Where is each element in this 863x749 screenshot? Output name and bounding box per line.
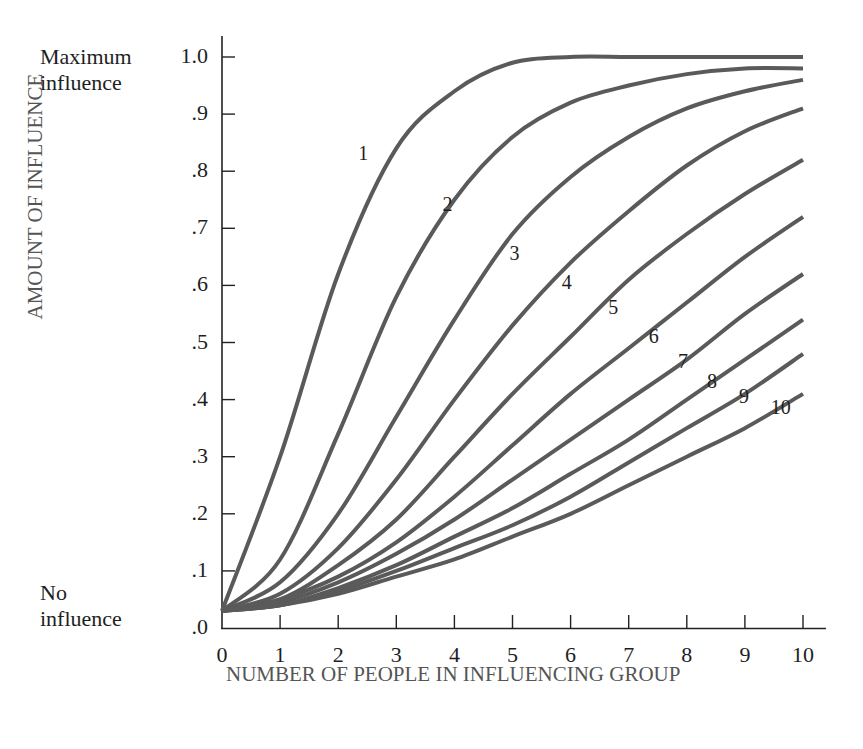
no-influence-annotation: No influence: [40, 580, 122, 632]
influence-curve-2: [222, 68, 803, 611]
y-axis-ticks: [222, 57, 235, 571]
x-tick-label: 9: [725, 642, 765, 668]
curve-label-5: 5: [608, 296, 618, 319]
no-influence-line2: influence: [40, 606, 122, 632]
max-influence-line1: Maximum: [40, 44, 132, 70]
y-tick-label: .0: [158, 614, 208, 640]
curve-label-8: 8: [707, 370, 717, 393]
y-tick-label: .5: [158, 329, 208, 355]
chart-plot-area: [0, 0, 863, 749]
x-tick-label: 10: [783, 642, 823, 668]
y-tick-label: .1: [158, 557, 208, 583]
influence-curve-3: [222, 80, 803, 611]
y-axis-title: AMOUNT OF INFLUENCE: [23, 74, 48, 320]
curve-label-6: 6: [649, 325, 659, 348]
curve-label-10: 10: [771, 396, 791, 419]
axes: [221, 36, 826, 629]
influence-curve-1: [222, 57, 803, 611]
x-axis-ticks: [280, 615, 803, 628]
y-tick-label: .3: [158, 443, 208, 469]
influence-curves: [222, 57, 803, 611]
no-influence-line1: No: [40, 580, 122, 606]
curve-label-3: 3: [509, 242, 519, 265]
curve-label-9: 9: [739, 385, 749, 408]
y-tick-label: .8: [158, 157, 208, 183]
y-tick-label: .6: [158, 271, 208, 297]
curve-label-7: 7: [678, 350, 688, 373]
y-tick-label: .4: [158, 386, 208, 412]
x-axis-title: NUMBER OF PEOPLE IN INFLUENCING GROUP: [226, 662, 680, 687]
curve-label-2: 2: [443, 193, 453, 216]
curve-label-1: 1: [358, 142, 368, 165]
y-tick-label: .2: [158, 500, 208, 526]
curve-label-4: 4: [562, 271, 572, 294]
y-tick-label: .9: [158, 100, 208, 126]
y-tick-label: 1.0: [158, 43, 208, 69]
max-influence-line2: influence: [40, 70, 132, 96]
max-influence-annotation: Maximum influence: [40, 44, 132, 96]
y-tick-label: .7: [158, 214, 208, 240]
